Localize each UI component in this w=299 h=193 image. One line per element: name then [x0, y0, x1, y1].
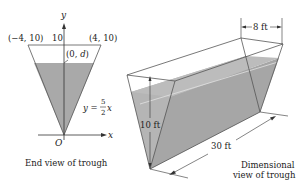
length-arrow-right-icon: [270, 116, 276, 121]
equation-variable: x: [107, 103, 112, 113]
end-view-caption: End view of trough: [25, 158, 108, 168]
equation-denominator: 2: [101, 109, 105, 117]
trough-diagram: y x O (−4, 10) 10 (4, 10) (0, d) y = 5 2…: [0, 0, 299, 193]
width-arrow-right-icon: [277, 26, 282, 29]
dimensional-caption-line2: view of trough: [232, 170, 296, 180]
point-left-label: (−4, 10): [8, 33, 43, 43]
length-label: 30 ft: [211, 141, 232, 151]
dimensional-view: 8 ft 10 ft 30 ft Dimensional view of tro…: [127, 18, 296, 180]
y-axis-arrow-icon: [62, 23, 66, 29]
dimensional-caption-line1: Dimensional: [241, 160, 295, 170]
end-view: y x O (−4, 10) 10 (4, 10) (0, d) y = 5 2…: [8, 10, 117, 168]
point-d-tick: [64, 60, 68, 63]
equation-numerator: 5: [101, 98, 105, 106]
height-arrow-top-icon: [149, 76, 152, 81]
height-label: 10 ft: [140, 120, 161, 130]
equation-lhs: y =: [82, 103, 98, 113]
y-axis-label: y: [60, 10, 67, 20]
x-axis-arrow-icon: [101, 133, 107, 137]
origin-label: O: [55, 138, 63, 148]
tick-10-label: 10: [52, 33, 63, 43]
width-arrow-left-icon: [241, 26, 246, 29]
x-axis-label: x: [108, 130, 113, 140]
point-right-label: (4, 10): [89, 33, 117, 43]
width-label: 8 ft: [253, 22, 268, 32]
line-equation: y = 5 2 x: [82, 98, 112, 117]
point-d-label: (0, d): [66, 49, 89, 59]
